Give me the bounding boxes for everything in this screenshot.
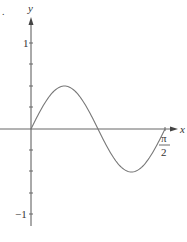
y-axis-arrow-icon (29, 17, 34, 25)
y-tick-label-1: 1 (23, 37, 29, 49)
chart: . y x 1 −1 π 2 (0, 0, 187, 242)
corner-mark: . (2, 6, 5, 17)
x-tick-label-pi: π (161, 132, 167, 144)
x-axis-label: x (179, 123, 185, 135)
y-tick-label-neg1: −1 (15, 208, 27, 220)
y-axis-label: y (27, 2, 33, 14)
x-tick-label-two: 2 (161, 146, 167, 158)
x-axis-arrow-icon (170, 127, 178, 132)
